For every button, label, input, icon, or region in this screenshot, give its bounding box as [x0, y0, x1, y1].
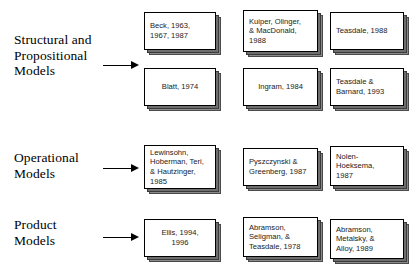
- diagram-canvas: Structural and Propositional Models Beck…: [0, 0, 418, 274]
- group-label-structural-propositional: Structural and Propositional Models: [14, 32, 92, 79]
- box-face: Beck, 1963, 1967, 1987: [144, 12, 216, 50]
- reference-box-abramson-seligman-teasdale[interactable]: Abramson, Seligman, & Teasdale, 1978: [243, 217, 318, 257]
- reference-box-teasdale-1988[interactable]: Teasdale, 1988: [330, 12, 404, 50]
- box-face: Abramson, Metalsky, & Alloy, 1989: [330, 219, 404, 259]
- reference-text: Pyszczynski & Greenberg, 1987: [244, 157, 317, 176]
- reference-text: Kuiper, Olinger, & MacDonald, 1988: [244, 17, 317, 46]
- box-face: Kuiper, Olinger, & MacDonald, 1988: [243, 10, 318, 52]
- arrow-right-icon-structural-propositional: [103, 60, 139, 72]
- box-face: Nolen- Hoeksema, 1987: [330, 146, 404, 186]
- box-face: Ellis, 1994, 1996: [144, 219, 216, 257]
- reference-box-ellis[interactable]: Ellis, 1994, 1996: [144, 219, 216, 257]
- box-face: Teasdale, 1988: [330, 12, 404, 50]
- arrow-right-icon-product: [103, 232, 139, 244]
- reference-text: Beck, 1963, 1967, 1987: [145, 21, 215, 40]
- group-label-product: Product Models: [14, 217, 57, 248]
- reference-box-kuiper-olinger-macdonald[interactable]: Kuiper, Olinger, & MacDonald, 1988: [243, 10, 318, 52]
- reference-box-nolen-hoeksema[interactable]: Nolen- Hoeksema, 1987: [330, 146, 404, 186]
- reference-text: Teasdale, 1988: [331, 26, 403, 36]
- box-face: Lewinsohn, Hoberman, Teri, & Hautzinger,…: [144, 145, 216, 189]
- box-face: Abramson, Seligman, & Teasdale, 1978: [243, 217, 318, 257]
- reference-text: Ellis, 1994, 1996: [145, 228, 215, 247]
- reference-text: Lewinsohn, Hoberman, Teri, & Hautzinger,…: [145, 148, 215, 186]
- reference-box-teasdale-barnard[interactable]: Teasdale & Barnard, 1993: [330, 68, 404, 106]
- reference-box-beck[interactable]: Beck, 1963, 1967, 1987: [144, 12, 216, 50]
- reference-text: Abramson, Seligman, & Teasdale, 1978: [244, 223, 317, 252]
- reference-text: Abramson, Metalsky, & Alloy, 1989: [331, 225, 403, 254]
- reference-text: Ingram, 1984: [244, 82, 317, 92]
- group-label-operational: Operational Models: [14, 150, 79, 181]
- reference-text: Blatt, 1974: [145, 82, 215, 92]
- reference-text: Teasdale & Barnard, 1993: [331, 77, 403, 96]
- reference-text: Nolen- Hoeksema, 1987: [331, 152, 403, 181]
- reference-box-lewinsohn[interactable]: Lewinsohn, Hoberman, Teri, & Hautzinger,…: [144, 145, 216, 189]
- reference-box-blatt[interactable]: Blatt, 1974: [144, 68, 216, 106]
- box-face: Ingram, 1984: [243, 68, 318, 106]
- reference-box-pyszczynski-greenberg[interactable]: Pyszczynski & Greenberg, 1987: [243, 148, 318, 186]
- arrow-right-icon-operational: [103, 163, 139, 175]
- box-face: Teasdale & Barnard, 1993: [330, 68, 404, 106]
- box-face: Blatt, 1974: [144, 68, 216, 106]
- reference-box-ingram[interactable]: Ingram, 1984: [243, 68, 318, 106]
- reference-box-abramson-metalsky-alloy[interactable]: Abramson, Metalsky, & Alloy, 1989: [330, 219, 404, 259]
- box-face: Pyszczynski & Greenberg, 1987: [243, 148, 318, 186]
